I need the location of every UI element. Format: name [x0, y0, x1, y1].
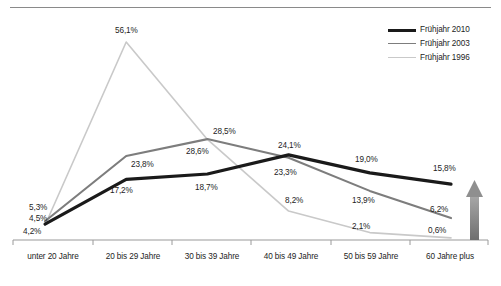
x-axis-label-3: 40 bis 49 Jahre	[251, 252, 331, 261]
x-axis-label-0: unter 20 Jahre	[13, 252, 93, 261]
series-line-fruehjahr-2010	[45, 155, 451, 224]
value-label-2010-1: 17,2%	[110, 186, 133, 195]
value-label-1996-0: 4,2%	[23, 227, 41, 236]
value-label-2003-5: 6,2%	[430, 205, 448, 214]
value-label-2003-2: 28,6%	[186, 147, 209, 156]
x-axis-ticks	[13, 240, 488, 245]
value-label-2010-4: 19,0%	[355, 155, 378, 164]
legend-swatch-icon-2003	[388, 39, 416, 47]
legend-swatch-icon-1996	[388, 53, 416, 61]
x-axis-label-2: 30 bis 39 Jahre	[172, 252, 252, 261]
value-label-2003-3: 23,3%	[274, 168, 297, 177]
x-axis-label-1: 20 bis 29 Jahre	[93, 252, 173, 261]
legend-item-fruehjahr-1996: Frühjahr 1996	[388, 50, 500, 64]
value-label-1996-1: 56,1%	[115, 26, 138, 35]
series-line-fruehjahr-2003	[45, 139, 451, 221]
value-label-2003-4: 13,9%	[352, 196, 375, 205]
value-label-2010-0: 4,5%	[29, 214, 47, 223]
legend-label-2003: Frühjahr 2003	[420, 39, 470, 48]
x-axis-label-5: 60 Jahre plus	[410, 252, 490, 261]
legend-item-fruehjahr-2003: Frühjahr 2003	[388, 36, 500, 50]
legend-label-1996: Frühjahr 1996	[420, 53, 470, 62]
chart-legend: Frühjahr 2010 Frühjahr 2003 Frühjahr 199…	[388, 22, 500, 64]
x-axis-label-4: 50 bis 59 Jahre	[331, 252, 411, 261]
value-label-2010-2: 18,7%	[195, 183, 218, 192]
legend-swatch-icon-2010	[388, 25, 416, 33]
growth-arrow-icon	[466, 180, 483, 240]
value-label-1996-2: 28,5%	[213, 127, 236, 136]
legend-item-fruehjahr-2010: Frühjahr 2010	[388, 22, 500, 36]
value-label-1996-5: 0,6%	[428, 226, 446, 235]
chart-container: 4,2% 56,1% 28,5% 8,2% 2,1% 0,6% 5,3% 23,…	[0, 0, 501, 286]
value-label-2003-0: 5,3%	[29, 203, 47, 212]
value-label-1996-4: 2,1%	[352, 222, 370, 231]
value-label-2010-5: 15,8%	[433, 164, 456, 173]
value-label-2010-3: 24,1%	[278, 141, 301, 150]
value-label-1996-3: 8,2%	[285, 196, 303, 205]
legend-label-2010: Frühjahr 2010	[420, 25, 470, 34]
series-line-fruehjahr-1996	[45, 42, 451, 238]
value-label-2003-1: 23,8%	[131, 160, 154, 169]
